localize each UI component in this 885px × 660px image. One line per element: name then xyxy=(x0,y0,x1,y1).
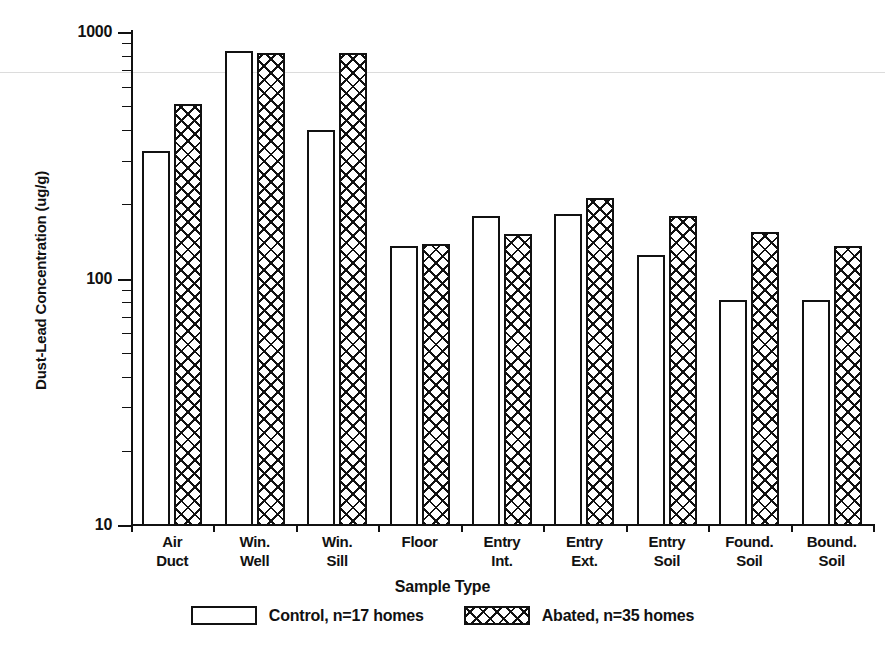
x-tick xyxy=(213,525,215,532)
legend: Control, n=17 homes Abated, n=35 homes xyxy=(0,606,885,625)
x-tick-label: Air Duct xyxy=(131,532,213,570)
y-tick-label: 1000 xyxy=(78,23,112,41)
x-tick-label: Floor xyxy=(378,532,460,551)
y-tick-minor xyxy=(122,106,131,107)
x-tick-label: Bound. Soil xyxy=(791,532,873,570)
legend-item-abated: Abated, n=35 homes xyxy=(464,606,694,625)
y-tick-major: 100 xyxy=(118,279,131,281)
bar-control-0 xyxy=(142,151,170,526)
x-tick-label: Win. Sill xyxy=(296,532,378,570)
legend-label-control: Control, n=17 homes xyxy=(269,607,424,625)
y-tick-minor xyxy=(122,43,131,44)
y-tick-minor xyxy=(122,56,131,57)
y-tick-major: 10 xyxy=(118,525,131,527)
x-tick-label: Entry Int. xyxy=(461,532,543,570)
bar-abated-8 xyxy=(834,246,862,526)
bar-control-2 xyxy=(307,130,335,526)
x-tick xyxy=(708,525,710,532)
bar-control-7 xyxy=(719,300,747,526)
y-tick-minor xyxy=(122,377,131,378)
bar-abated-3 xyxy=(422,244,450,526)
y-tick-minor xyxy=(122,407,131,408)
open-rectangle-swatch-icon xyxy=(191,606,257,625)
y-tick-minor xyxy=(122,161,131,162)
dust-lead-bar-chart: Dust-Lead Concentration (ug/g) 101001000… xyxy=(0,0,885,660)
y-tick-major: 1000 xyxy=(118,32,131,34)
y-tick-label: 10 xyxy=(95,516,112,534)
bar-abated-4 xyxy=(504,234,532,526)
bar-control-3 xyxy=(390,246,418,526)
y-tick-minor xyxy=(122,70,131,71)
y-tick-minor xyxy=(122,451,131,452)
y-tick-minor xyxy=(122,87,131,88)
bar-abated-2 xyxy=(339,53,367,526)
x-tick xyxy=(791,525,793,532)
bar-abated-0 xyxy=(174,104,202,526)
x-tick xyxy=(378,525,380,532)
bar-control-4 xyxy=(472,216,500,526)
x-tick xyxy=(296,525,298,532)
y-tick-minor xyxy=(122,204,131,205)
y-tick-minor xyxy=(122,130,131,131)
y-tick-minor xyxy=(122,290,131,291)
y-tick-minor xyxy=(122,302,131,303)
bar-control-1 xyxy=(225,51,253,526)
x-tick xyxy=(873,525,875,532)
y-axis-title: Dust-Lead Concentration (ug/g) xyxy=(32,71,49,491)
bar-abated-5 xyxy=(586,198,614,526)
y-tick-label: 100 xyxy=(86,270,112,288)
bar-control-6 xyxy=(637,255,665,526)
x-tick-label: Entry Soil xyxy=(626,532,708,570)
x-tick-label: Win. Well xyxy=(213,532,295,570)
x-tick xyxy=(543,525,545,532)
x-axis-title: Sample Type xyxy=(0,578,885,596)
bar-abated-7 xyxy=(751,232,779,526)
y-tick-minor xyxy=(122,317,131,318)
x-tick-label: Found. Soil xyxy=(708,532,790,570)
bar-control-8 xyxy=(802,300,830,526)
y-tick-minor xyxy=(122,333,131,334)
legend-item-control: Control, n=17 homes xyxy=(191,606,424,625)
bar-control-5 xyxy=(554,214,582,526)
x-tick xyxy=(626,525,628,532)
x-tick xyxy=(461,525,463,532)
x-tick-label: Entry Ext. xyxy=(543,532,625,570)
y-tick-minor xyxy=(122,353,131,354)
bar-abated-1 xyxy=(257,53,285,526)
bar-abated-6 xyxy=(669,216,697,526)
x-tick xyxy=(131,525,133,532)
crosshatch-rectangle-swatch-icon xyxy=(464,606,530,625)
legend-label-abated: Abated, n=35 homes xyxy=(542,607,694,625)
